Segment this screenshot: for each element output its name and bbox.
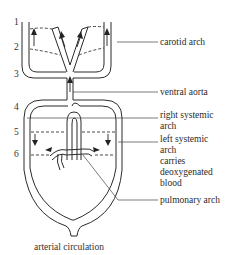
arrow-up-icon [104,28,110,35]
labels: carotid arch ventral aorta right systemi… [160,37,220,205]
carotid-dashes [30,27,104,56]
arterial-circulation-diagram: 1 2 3 4 5 6 [0,0,241,255]
systemic-dashes [31,132,115,155]
arrow-up-icon [77,31,83,39]
arrow-down-icon [105,140,111,146]
label-ventral-aorta: ventral aorta [160,87,209,97]
arch-number-6: 6 [14,149,19,159]
carotid-flow-arrows [31,28,110,92]
arrow-up-icon [67,76,73,83]
systemic-pulmonary-vessel [24,100,122,236]
arrow-right-icon [93,147,100,152]
arrow-left-icon [45,147,52,152]
label-carotid-arch: carotid arch [160,37,205,47]
label-left-systemic-line1: left systemic [160,134,208,144]
label-left-systemic-line2: arch [160,145,177,155]
label-left-systemic-line4: deoxygenated [160,167,213,177]
arch-number-4: 4 [14,102,19,112]
label-right-systemic-line1: right systemic [160,110,214,120]
diagram-caption: arterial circulation [34,242,104,252]
label-right-systemic-line2: arch [160,121,177,131]
arch-number-5: 5 [14,127,19,137]
arch-number-3: 3 [14,69,19,79]
arrow-down-icon [32,140,38,146]
leader-lines [27,42,158,200]
label-pulmonary-arch: pulmonary arch [160,195,220,205]
label-left-systemic-line5: blood [160,178,182,188]
arch-number-2: 2 [14,42,19,52]
arch-numbers: 1 2 3 4 5 6 [14,17,19,159]
systemic-arch-loops [67,103,81,160]
arch-number-1: 1 [14,17,19,27]
label-left-systemic-line3: carries [160,156,186,166]
